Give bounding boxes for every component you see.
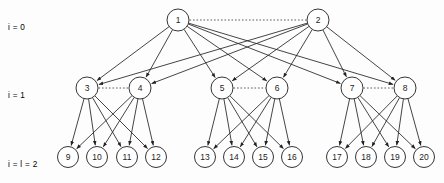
edge-1-to-4 <box>146 30 172 77</box>
edge-2-to-4 <box>152 24 308 84</box>
level-label-text: i = 1 <box>8 91 25 100</box>
node-17[interactable]: 17 <box>327 147 348 168</box>
node-label-19: 19 <box>390 152 400 162</box>
edge-2-to-8 <box>327 27 395 80</box>
node-label-5: 5 <box>220 83 225 93</box>
edge-4-to-12 <box>143 99 154 145</box>
node-label-14: 14 <box>229 152 239 162</box>
edge-1-to-7 <box>188 24 340 83</box>
node-label-17: 17 <box>332 152 342 162</box>
node-16[interactable]: 16 <box>282 147 303 168</box>
node-label-1: 1 <box>176 15 181 25</box>
node-18[interactable]: 18 <box>356 147 377 168</box>
edge-2-to-7 <box>323 30 346 77</box>
node-19[interactable]: 19 <box>385 147 406 168</box>
node-label-11: 11 <box>123 152 132 162</box>
graph-svg: 1234567891011121314151617181920 <box>0 0 444 183</box>
node-14[interactable]: 14 <box>224 147 245 168</box>
edge-2-to-6 <box>283 30 312 78</box>
node-7[interactable]: 7 <box>341 77 363 99</box>
node-20[interactable]: 20 <box>414 147 435 168</box>
node-3[interactable]: 3 <box>76 77 98 99</box>
node-12[interactable]: 12 <box>146 147 167 168</box>
level-label-level-0: i = 0 <box>8 16 25 34</box>
node-10[interactable]: 10 <box>87 147 108 168</box>
node-11[interactable]: 11 <box>117 147 138 168</box>
level-label-text: i = 0 <box>8 23 25 32</box>
edge-8-to-20 <box>408 99 421 146</box>
edge-4-to-11 <box>129 99 138 145</box>
node-label-7: 7 <box>350 83 355 93</box>
node-8[interactable]: 8 <box>394 77 416 99</box>
edge-4-to-10 <box>103 98 134 147</box>
edge-3-to-11 <box>93 98 121 147</box>
node-9[interactable]: 9 <box>58 147 79 168</box>
node-label-3: 3 <box>85 83 90 93</box>
node-13[interactable]: 13 <box>195 147 216 168</box>
node-label-6: 6 <box>275 83 280 93</box>
node-label-8: 8 <box>403 83 408 93</box>
node-label-13: 13 <box>200 152 210 162</box>
edge-5-to-13 <box>208 99 219 146</box>
edge-3-to-10 <box>89 99 96 145</box>
level-label-text: i = l = 2 <box>8 160 38 169</box>
edge-6-to-13 <box>214 96 269 149</box>
edge-4-to-9 <box>77 96 132 149</box>
node-label-12: 12 <box>151 152 161 162</box>
edge-5-to-15 <box>228 98 257 147</box>
edge-8-to-17 <box>345 96 397 149</box>
edge-6-to-16 <box>279 99 289 145</box>
node-label-2: 2 <box>316 15 321 25</box>
edge-5-to-14 <box>224 99 232 145</box>
edge-3-to-9 <box>71 99 84 146</box>
edge-1-to-3 <box>97 27 169 81</box>
node-label-15: 15 <box>258 152 268 162</box>
edges-layer <box>71 23 421 149</box>
node-6[interactable]: 6 <box>266 77 288 99</box>
edge-8-to-18 <box>372 98 400 147</box>
edge-3-to-12 <box>95 96 148 149</box>
level-label-level-2: i = l = 2 <box>8 153 38 171</box>
node-1[interactable]: 1 <box>167 9 189 31</box>
edge-1-to-5 <box>184 29 215 77</box>
node-label-18: 18 <box>361 152 371 162</box>
node-5[interactable]: 5 <box>211 77 233 99</box>
edge-2-to-3 <box>99 23 307 84</box>
node-2[interactable]: 2 <box>307 9 329 31</box>
edge-7-to-20 <box>360 96 415 149</box>
level-label-level-1: i = 1 <box>8 84 25 102</box>
node-label-4: 4 <box>138 83 143 93</box>
node-label-16: 16 <box>287 152 297 162</box>
diagram-canvas: 1234567891011121314151617181920 i = 0i =… <box>0 0 444 183</box>
node-label-10: 10 <box>92 152 102 162</box>
edge-7-to-17 <box>340 99 350 145</box>
edge-8-to-19 <box>397 99 404 145</box>
edge-1-to-8 <box>189 23 393 84</box>
node-15[interactable]: 15 <box>253 147 274 168</box>
node-label-20: 20 <box>419 152 429 162</box>
node-4[interactable]: 4 <box>129 77 151 99</box>
node-label-9: 9 <box>66 152 71 162</box>
edge-5-to-16 <box>230 96 284 149</box>
